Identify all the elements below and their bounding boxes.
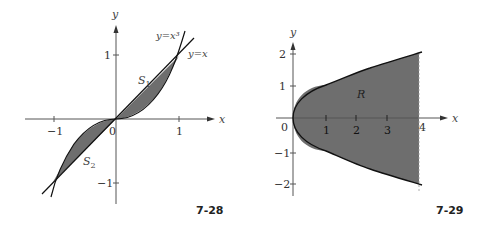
line-y-eq-x <box>42 38 194 194</box>
y-axis-arrow-icon <box>291 42 296 50</box>
y-tick-label-2: 2 <box>279 48 286 61</box>
x-axis-arrow-icon <box>207 117 215 122</box>
x-tick-label-4: 4 <box>419 121 426 134</box>
y-axis-label: y <box>111 8 119 21</box>
chart-7-29: 0 1 2 3 4 2 1 −1 −2 x y R <box>274 26 459 196</box>
x-tick-label-3: 3 <box>384 124 391 137</box>
x-tick-label-1: 1 <box>176 125 183 138</box>
y-axis-arrow-icon <box>114 25 119 33</box>
label-s2: S2 <box>83 155 96 170</box>
figures-canvas: −1 0 1 1 −1 x y y=x³ y=x S1 S2 <box>0 0 478 226</box>
y-tick-label-1: 1 <box>104 49 111 62</box>
x-axis-label: x <box>452 112 459 125</box>
x-tick-label-2: 2 <box>353 124 360 137</box>
y-tick-label-neg1: −1 <box>97 177 113 190</box>
x-axis-arrow-icon <box>440 116 448 121</box>
label-y-eq-x3: y=x³ <box>155 30 180 41</box>
curve-y-eq-x3 <box>51 31 185 197</box>
x-tick-label-neg1: −1 <box>47 125 63 138</box>
x-tick-label-0: 0 <box>109 125 116 138</box>
y-axis-label: y <box>289 26 297 39</box>
label-r: R <box>356 88 365 101</box>
x-tick-label-0: 0 <box>281 121 288 134</box>
figure-label-7-29: 7-29 <box>436 204 464 217</box>
y-tick-label-1: 1 <box>279 80 286 93</box>
y-tick-label-neg2: −2 <box>274 178 290 191</box>
label-s1: S1 <box>138 74 151 89</box>
figure-label-7-28: 7-28 <box>196 204 224 217</box>
label-y-eq-x: y=x <box>187 48 208 59</box>
y-tick-label-neg1: −1 <box>274 147 290 160</box>
x-tick-label-1: 1 <box>323 124 330 137</box>
x-axis-label: x <box>219 113 226 126</box>
chart-7-28: −1 0 1 1 −1 x y y=x³ y=x S1 S2 <box>25 8 226 204</box>
